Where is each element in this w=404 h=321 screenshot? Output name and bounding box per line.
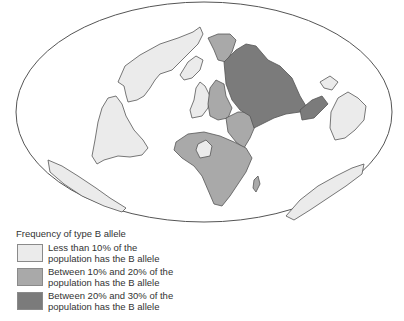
legend-item-low: Less than 10% of the population has the … [14, 242, 254, 266]
legend-item-medium: Between 10% and 20% of the population ha… [14, 266, 254, 290]
legend-item-high: Between 20% and 30% of the population ha… [14, 290, 254, 314]
legend-label-low: Less than 10% of the population has the … [48, 242, 159, 264]
map-legend: Frequency of type B allele Less than 10%… [14, 228, 254, 314]
legend-label-low-line2: population has the B allele [48, 253, 159, 264]
legend-label-high-line2: population has the B allele [48, 301, 173, 312]
legend-label-medium-line1: Between 10% and 20% of the [48, 266, 173, 277]
legend-title: Frequency of type B allele [16, 228, 254, 240]
legend-swatch-medium [17, 268, 43, 286]
legend-label-high-line1: Between 20% and 30% of the [48, 290, 173, 301]
world-map [0, 0, 404, 230]
legend-swatch-low [17, 244, 43, 262]
legend-label-medium-line2: population has the B allele [48, 277, 173, 288]
legend-label-low-line1: Less than 10% of the [48, 242, 159, 253]
legend-label-medium: Between 10% and 20% of the population ha… [48, 266, 173, 288]
legend-swatch-high [17, 292, 43, 310]
legend-label-high: Between 20% and 30% of the population ha… [48, 290, 173, 312]
